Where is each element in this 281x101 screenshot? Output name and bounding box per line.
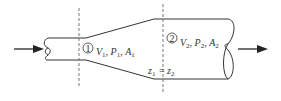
- svg-text:V2, P2, A2: V2, P2, A2: [180, 37, 219, 50]
- pipe-diagram: 1 V1, P1, A1 2 V2, P2, A2 z1 = z2: [0, 0, 281, 101]
- elevation-label: z1 = z2: [147, 65, 175, 78]
- section-2-label: 2 V2, P2, A2: [167, 33, 219, 51]
- svg-text:V1, P1, A1: V1, P1, A1: [96, 46, 135, 59]
- outlet-arrow: [238, 45, 268, 53]
- svg-text:2: 2: [170, 33, 175, 44]
- svg-text:z2: z2: [166, 65, 175, 78]
- inlet-arrow: [14, 45, 44, 53]
- svg-text:z1: z1: [147, 65, 156, 78]
- pipe-outline: [44, 19, 234, 79]
- svg-text:=: =: [159, 65, 165, 76]
- section-1-label: 1 V1, P1, A1: [83, 43, 135, 60]
- svg-text:1: 1: [86, 43, 91, 54]
